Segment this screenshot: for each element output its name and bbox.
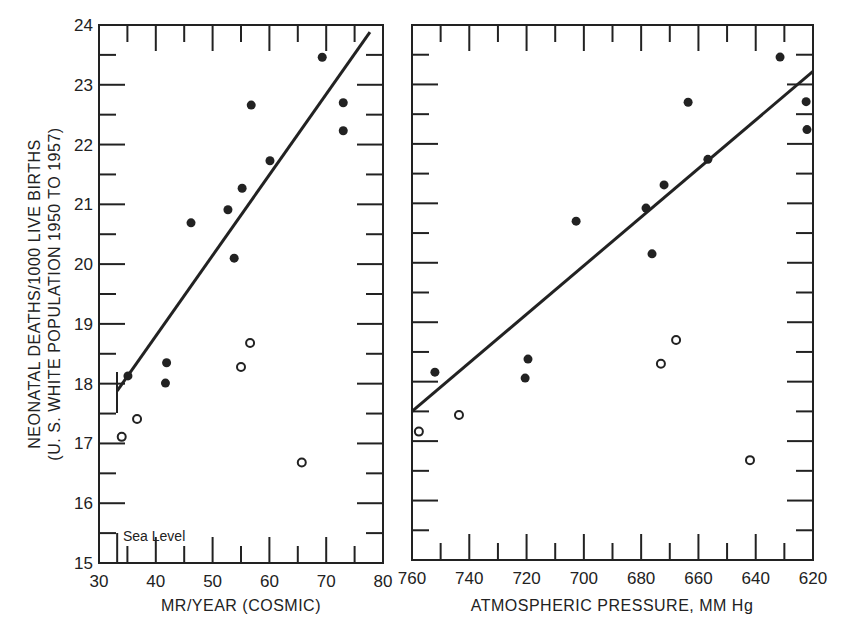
y-tick-label: 21 [74, 195, 93, 214]
x-tick-label: 760 [398, 569, 426, 588]
sea-level-annotation: Sea Level [123, 528, 185, 544]
y-tick-label: 22 [74, 136, 93, 155]
y-tick-label: 24 [74, 16, 93, 35]
data-point-open [746, 456, 754, 464]
y-tick-label: 16 [74, 494, 93, 513]
right-chart-panel: 760740720700680660640620 [398, 25, 827, 588]
chart-figure: 15161718192021222324304050607080 7607407… [0, 0, 841, 628]
y-tick-label: 20 [74, 255, 93, 274]
right-x-axis-title: ATMOSPHERIC PRESSURE, MM Hg [471, 597, 754, 614]
regression-line [412, 71, 813, 411]
x-tick-label: 660 [684, 569, 712, 588]
y-axis-subtitle: (U. S. WHITE POPULATION 1950 TO 1957) [46, 127, 63, 460]
y-tick-label: 17 [74, 434, 93, 453]
data-point-filled [339, 98, 348, 107]
x-tick-label: 30 [90, 572, 109, 591]
data-point-filled [521, 374, 530, 383]
data-point-open [672, 336, 680, 344]
x-tick-label: 640 [742, 569, 770, 588]
data-point-filled [187, 218, 196, 227]
x-tick-label: 40 [146, 572, 165, 591]
y-tick-label: 19 [74, 315, 93, 334]
x-tick-label: 50 [203, 572, 222, 591]
x-tick-label: 680 [627, 569, 655, 588]
y-axis-title: NEONATAL DEATHS/1000 LIVE BIRTHS [26, 139, 43, 448]
x-tick-label: 720 [512, 569, 540, 588]
data-point-open [246, 339, 254, 347]
data-point-filled [339, 126, 348, 135]
x-tick-label: 80 [374, 572, 393, 591]
data-point-filled [318, 53, 327, 62]
data-point-open [133, 415, 141, 423]
data-point-filled [230, 254, 239, 263]
left-chart-panel: 15161718192021222324304050607080 [74, 16, 392, 591]
data-point-filled [648, 249, 657, 258]
y-tick-label: 15 [74, 554, 93, 573]
data-point-filled [430, 368, 439, 377]
x-tick-label: 700 [570, 569, 598, 588]
data-point-filled [802, 125, 811, 134]
data-point-filled [161, 379, 170, 388]
data-point-open [298, 459, 306, 467]
data-point-filled [802, 97, 811, 106]
data-point-filled [776, 53, 785, 62]
data-point-filled [223, 205, 232, 214]
data-point-open [237, 363, 245, 371]
data-point-filled [162, 358, 171, 367]
y-tick-label: 18 [74, 375, 93, 394]
data-point-open [657, 360, 665, 368]
data-point-filled [660, 180, 669, 189]
data-point-open [455, 411, 463, 419]
regression-line [117, 32, 370, 391]
data-point-open [118, 433, 126, 441]
x-tick-label: 740 [455, 569, 483, 588]
data-point-filled [684, 98, 693, 107]
y-tick-label: 23 [74, 76, 93, 95]
x-tick-label: 620 [799, 569, 827, 588]
data-point-filled [265, 156, 274, 165]
data-point-open [415, 428, 423, 436]
data-point-filled [247, 101, 256, 110]
data-point-filled [524, 355, 533, 364]
data-point-filled [238, 184, 247, 193]
x-tick-label: 70 [317, 572, 336, 591]
left-x-axis-title: MR/YEAR (COSMIC) [161, 597, 321, 614]
x-tick-label: 60 [260, 572, 279, 591]
plot-frame [412, 25, 813, 560]
data-point-filled [572, 217, 581, 226]
